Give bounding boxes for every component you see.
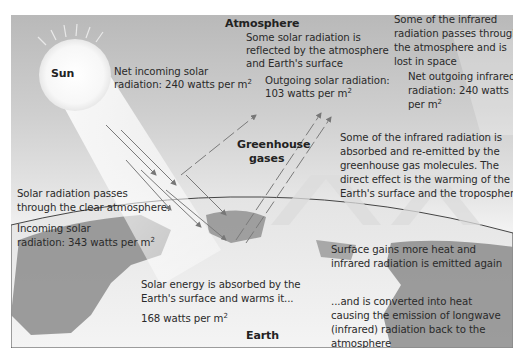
atmosphere-label: Atmosphere [225,17,299,30]
earth-label: Earth [246,329,279,342]
greenhouse-gases-label-line2: gases [249,152,284,165]
greenhouse-effect-diagram: Sun Atmosphere Greenhouse gases Earth Ne… [11,15,513,348]
sun-label: Sun [51,67,74,80]
greenhouse-gases-label-line1: Greenhouse [237,138,310,151]
